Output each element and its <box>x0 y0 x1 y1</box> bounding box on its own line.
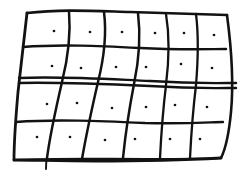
cell-dot <box>111 107 114 110</box>
cell-dot <box>80 67 83 70</box>
sketch-canvas <box>0 0 241 172</box>
cell-dot <box>46 103 49 106</box>
cell-dot <box>104 139 107 142</box>
cell-dot <box>145 66 148 69</box>
cell-dot <box>134 138 137 141</box>
cell-dot <box>169 138 172 141</box>
cell-dot <box>36 136 39 139</box>
cell-dot <box>174 104 177 107</box>
cell-dot <box>89 31 92 34</box>
cell-dot <box>211 67 214 70</box>
horizontal-bottom-reinforce <box>14 158 221 160</box>
canvas-background <box>0 0 241 172</box>
cell-dot <box>213 34 216 37</box>
cell-dot <box>183 32 186 35</box>
cell-dot <box>53 30 56 33</box>
cell-dot <box>76 102 79 105</box>
cell-dot <box>180 63 183 66</box>
cell-dot <box>199 138 202 141</box>
cell-dot <box>69 136 72 139</box>
cell-dot <box>121 31 124 34</box>
cell-dot <box>206 106 209 109</box>
cell-dot <box>51 65 54 68</box>
cell-dot <box>154 32 157 35</box>
cell-dot <box>145 106 148 109</box>
hand-drawn-grid-drawing <box>0 0 241 172</box>
cell-dot <box>115 66 118 69</box>
